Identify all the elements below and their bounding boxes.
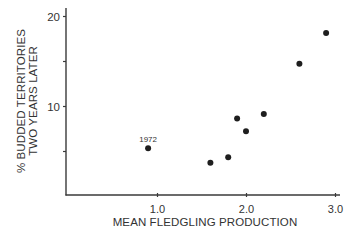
x-tick-label: 2.0 — [239, 203, 254, 215]
data-points: 1972 — [139, 30, 329, 166]
data-point — [261, 111, 267, 117]
data-point — [145, 145, 151, 151]
data-point — [243, 128, 249, 134]
y-axis-label: % BUDDED TERRITORIES TWO YEARS LATER — [15, 29, 39, 173]
y-tick-label: 20 — [47, 11, 60, 23]
x-tick-label: 3.0 — [328, 203, 343, 215]
data-point — [234, 116, 240, 122]
point-annotation: 1972 — [139, 135, 157, 144]
data-point — [207, 160, 213, 166]
y-axis-label-line-2: TWO YEARS LATER — [27, 29, 39, 173]
y-axis-label-line-1: % BUDDED TERRITORIES — [15, 29, 27, 173]
axis-ticks: 20101.02.03.0 — [47, 11, 343, 216]
data-point — [225, 154, 231, 160]
y-tick-label: 10 — [47, 101, 60, 113]
x-axis-label: MEAN FLEDGLING PRODUCTION — [113, 216, 298, 228]
data-point — [323, 30, 329, 36]
axes — [66, 8, 341, 196]
data-point — [296, 61, 302, 67]
scatter-chart: 20101.02.03.0 1972 — [0, 0, 356, 234]
x-tick-label: 1.0 — [150, 203, 165, 215]
